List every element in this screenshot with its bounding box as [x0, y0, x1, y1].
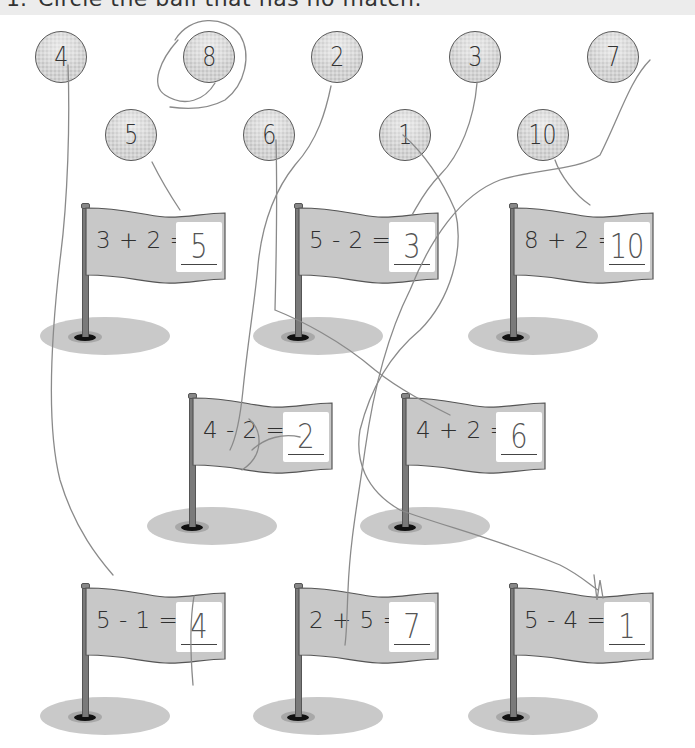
instruction-text: Circle the ball that has no match.	[38, 0, 422, 11]
instruction-header: 1. Circle the ball that has no match.	[0, 0, 695, 15]
match-line-10	[555, 160, 590, 205]
green-shadow	[253, 697, 383, 735]
answer-value: 10	[609, 226, 646, 266]
answer-value: 5	[181, 226, 218, 266]
ball-number: 5	[124, 122, 138, 148]
golf-ball-3[interactable]: 3	[449, 31, 501, 83]
flag-problem-3: 8 + 2 = 10	[468, 205, 638, 355]
green-shadow	[360, 507, 490, 545]
answer-box[interactable]: 2	[283, 412, 329, 462]
answer-box[interactable]: 1	[604, 602, 650, 652]
answer-underline	[288, 454, 324, 456]
flag-problem-1: 3 + 2 = 5	[40, 205, 210, 355]
golf-ball-2[interactable]: 2	[311, 31, 363, 83]
green-shadow	[40, 697, 170, 735]
equation-text: 5 - 1 =	[96, 607, 178, 633]
answer-box[interactable]: 5	[176, 222, 222, 272]
answer-value: 1	[609, 606, 646, 646]
answer-value: 4	[181, 606, 218, 646]
ball-number: 1	[398, 122, 412, 148]
answer-value: 6	[501, 416, 538, 456]
question-number: 1.	[6, 0, 27, 11]
ball-number: 2	[330, 44, 344, 70]
ball-number: 6	[262, 122, 276, 148]
equation-text: 5 - 4 =	[524, 607, 606, 633]
match-line-5	[152, 162, 180, 210]
equation-text: 4 - 2 =	[203, 417, 285, 443]
golf-ball-6[interactable]: 6	[243, 109, 295, 161]
flag-problem-8: 5 - 4 = 1	[468, 585, 638, 735]
answer-box[interactable]: 7	[389, 602, 435, 652]
answer-underline	[394, 264, 430, 266]
ball-number: 10	[529, 122, 557, 148]
flag-problem-2: 5 - 2 = 3	[253, 205, 423, 355]
flag-problem-7: 2 + 5 = 7	[253, 585, 423, 735]
answer-underline	[609, 264, 645, 266]
answer-box[interactable]: 3	[389, 222, 435, 272]
answer-value: 7	[394, 606, 431, 646]
answer-value: 3	[394, 226, 431, 266]
ball-number: 4	[54, 44, 68, 70]
flag-problem-5: 4 + 2 = 6	[360, 395, 530, 545]
answer-underline	[181, 264, 217, 266]
golf-ball-8[interactable]: 8	[183, 31, 235, 83]
flag-problem-6: 5 - 1 = 4	[40, 585, 210, 735]
answer-box[interactable]: 6	[496, 412, 542, 462]
equation-text: 5 - 2 =	[309, 227, 391, 253]
flag-problem-4: 4 - 2 = 2	[147, 395, 317, 545]
golf-ball-5[interactable]: 5	[105, 109, 157, 161]
green-shadow	[40, 317, 170, 355]
green-shadow	[253, 317, 383, 355]
answer-underline	[394, 644, 430, 646]
answer-value: 2	[288, 416, 325, 456]
golf-ball-1[interactable]: 1	[379, 109, 431, 161]
golf-ball-7[interactable]: 7	[587, 31, 639, 83]
answer-underline	[609, 644, 645, 646]
answer-underline	[501, 454, 537, 456]
answer-box[interactable]: 4	[176, 602, 222, 652]
golf-ball-10[interactable]: 10	[517, 109, 569, 161]
answer-box[interactable]: 10	[604, 222, 650, 272]
answer-underline	[181, 644, 217, 646]
ball-number: 3	[468, 44, 482, 70]
green-shadow	[468, 317, 598, 355]
green-shadow	[147, 507, 277, 545]
golf-ball-4[interactable]: 4	[35, 31, 87, 83]
ball-number: 8	[202, 44, 216, 70]
ball-number: 7	[606, 44, 620, 70]
green-shadow	[468, 697, 598, 735]
